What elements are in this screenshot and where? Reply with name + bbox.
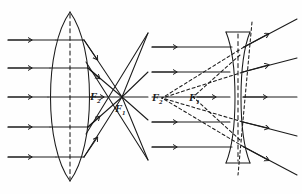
virtual-ray (162, 98, 243, 122)
post-focus-ray (122, 97, 148, 160)
diverging-lens-panel: F 2 F 1 (151, 19, 297, 175)
crossing-ray (86, 33, 148, 134)
focal-label-f1-subscript: 1 (196, 98, 200, 106)
post-focus-ray (122, 72, 148, 97)
focal-label-f2-subscript: 2 (96, 97, 101, 105)
focal-label-f1-subscript: 1 (122, 109, 126, 117)
diagram-canvas: F 2 F 1 (0, 0, 302, 194)
post-focus-diverging-rays (122, 33, 148, 160)
refracted-ray-direction-marks-right (243, 34, 268, 160)
virtual-ray (162, 72, 243, 98)
optics-ray-diagram-figure: F 2 F 1 (0, 0, 302, 194)
ray-arrow (243, 65, 268, 72)
incoming-parallel-rays-left (8, 40, 56, 157)
post-focus-ray (122, 97, 148, 120)
converging-lens-panel: F 2 F 1 (8, 12, 148, 181)
focal-label-f2-subscript: 2 (158, 98, 163, 106)
virtual-ray-long (238, 22, 252, 175)
post-focus-ray (122, 33, 148, 97)
ray-arrow (243, 122, 268, 128)
ray-arrow (244, 147, 268, 160)
focal-point-labels-right: F 2 F 1 (151, 91, 200, 106)
